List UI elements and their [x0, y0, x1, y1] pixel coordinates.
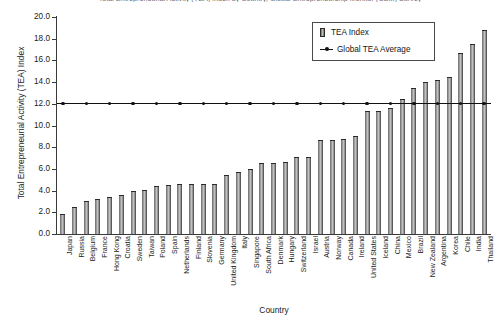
bar — [318, 140, 323, 234]
legend-item-global-average: Global TEA Average — [320, 42, 410, 56]
bar — [341, 139, 346, 234]
bar — [376, 111, 381, 234]
y-axis-tick-label: 14.0 — [24, 77, 50, 86]
bar — [154, 186, 159, 234]
y-axis-tick-label: 8.0 — [24, 142, 50, 151]
bar — [119, 195, 124, 234]
y-axis-tick-label: 10.0 — [24, 121, 50, 130]
bar — [189, 184, 194, 234]
x-axis-category-labels: JapanRussiaBelgiumFranceHong KongCroatia… — [57, 236, 493, 300]
bar — [248, 169, 253, 234]
x-axis-line — [56, 234, 491, 235]
bar — [470, 44, 475, 234]
bar — [400, 99, 405, 234]
legend-label-global-average: Global TEA Average — [337, 45, 410, 54]
y-axis-tick-label: 2.0 — [24, 207, 50, 216]
bar — [271, 163, 276, 234]
y-axis-tick-label: 16.0 — [24, 55, 50, 64]
bar — [458, 53, 463, 234]
bar — [224, 175, 229, 234]
bar — [423, 82, 428, 234]
bar — [283, 162, 288, 234]
bar — [411, 88, 416, 234]
bar — [294, 157, 299, 234]
legend-line-marker-icon — [320, 45, 333, 54]
bar — [142, 190, 147, 234]
bar — [388, 108, 393, 234]
bar — [177, 184, 182, 234]
bar — [131, 191, 136, 234]
bar — [306, 157, 311, 234]
bar — [353, 136, 358, 234]
y-axis-tick-labels: 20.018.016.014.012.010.08.06.04.02.00.0 — [20, 0, 50, 250]
y-axis-tick-label: 12.0 — [24, 99, 50, 108]
y-axis-tick-label: 20.0 — [24, 12, 50, 21]
y-axis-tick-label: 4.0 — [24, 186, 50, 195]
bar — [482, 30, 487, 234]
x-axis-title: Country — [57, 305, 491, 315]
bar — [447, 77, 452, 234]
bar — [330, 140, 335, 234]
y-axis-tick-label: 18.0 — [24, 34, 50, 43]
y-axis-tick-label: 0.0 — [24, 229, 50, 238]
legend-bar-swatch-icon — [320, 28, 325, 37]
legend-label-tea-index: TEA Index — [331, 28, 369, 37]
bar — [95, 199, 100, 234]
bar — [60, 214, 65, 234]
bar — [212, 184, 217, 234]
chart-legend: TEA Index Global TEA Average — [312, 22, 435, 61]
legend-item-tea-index: TEA Index — [320, 25, 369, 39]
y-axis-tick-label: 6.0 — [24, 164, 50, 173]
bar — [72, 207, 77, 234]
bar — [201, 184, 206, 234]
bar — [84, 201, 89, 234]
y-axis-tick — [52, 234, 57, 235]
bar — [166, 185, 171, 234]
bar — [365, 111, 370, 234]
bar — [236, 172, 241, 234]
chart-title: Total Entrepreneurial Activity (TEA) Ind… — [60, 0, 460, 2]
bar — [259, 163, 264, 234]
bar — [107, 197, 112, 234]
